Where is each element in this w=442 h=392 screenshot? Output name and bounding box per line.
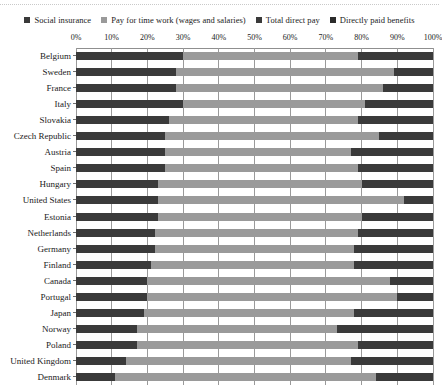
bar-segment [155, 229, 358, 237]
y-axis-category-label: Finland [43, 257, 71, 273]
stacked-bar [76, 213, 433, 221]
y-axis-category-label: France [47, 80, 72, 96]
y-axis-category-label: Austria [45, 144, 72, 160]
chart-row: United Kingdom [76, 353, 433, 369]
legend-swatch-icon [101, 17, 107, 23]
y-axis-category-label: United Kingdom [10, 353, 71, 369]
bar-segment [351, 148, 433, 156]
stacked-bar [76, 132, 433, 140]
legend-item: Pay for time work (wages and salaries) [101, 15, 246, 25]
bar-segment [183, 100, 365, 108]
x-axis-tick-label: 0% [71, 33, 82, 43]
bar-segment [354, 261, 433, 269]
chart-row: Netherlands [76, 225, 433, 241]
bar-segment [126, 357, 351, 365]
bar-segment [165, 148, 351, 156]
bar-segment [376, 373, 433, 381]
bar-segment [76, 148, 165, 156]
bar-segment [76, 213, 158, 221]
stacked-bar [76, 229, 433, 237]
stacked-bar [76, 293, 433, 301]
stacked-bar [76, 373, 433, 381]
stacked-bar [76, 84, 433, 92]
y-axis-category-label: Sweden [43, 64, 72, 80]
chart-row: Hungary [76, 176, 433, 192]
bar-segment [390, 277, 433, 285]
legend-swatch-icon [330, 17, 336, 23]
chart-row: Sweden [76, 64, 433, 80]
y-axis-category-label: Norway [42, 321, 71, 337]
bar-segment [155, 245, 355, 253]
bar-segment [76, 100, 183, 108]
y-axis-category-label: Slovakia [40, 112, 72, 128]
chart-row: Austria [76, 144, 433, 160]
bar-segment [354, 245, 433, 253]
bar-segment [76, 309, 144, 317]
top-divider-rule [0, 4, 439, 5]
chart-row: Portugal [76, 289, 433, 305]
bar-segment [176, 68, 394, 76]
y-axis-category-label: Canada [44, 273, 71, 289]
bar-segment [76, 261, 151, 269]
bar-segment [397, 293, 433, 301]
chart-row: Italy [76, 96, 433, 112]
bar-segment [358, 164, 433, 172]
y-axis-category-label: Poland [46, 337, 71, 353]
stacked-bar [76, 68, 433, 76]
chart-row: Canada [76, 273, 433, 289]
x-axis-tick-label: 100% [424, 33, 442, 43]
bar-segment [379, 132, 433, 140]
chart-row: Japan [76, 305, 433, 321]
stacked-bar [76, 100, 433, 108]
x-axis-tick-label: 70% [319, 33, 334, 43]
bar-segment [383, 84, 433, 92]
bar-segment [165, 164, 358, 172]
legend-label: Total direct pay [266, 15, 320, 25]
x-axis-tick-label: 20% [140, 33, 155, 43]
y-axis-category-label: Czech Republic [14, 128, 71, 144]
bar-segment [358, 52, 433, 60]
bar-segment [394, 68, 433, 76]
bar-rows: BelgiumSwedenFranceItalySlovakiaCzech Re… [76, 48, 433, 385]
legend-label: Social insurance [34, 15, 91, 25]
y-axis-category-label: United States [23, 192, 71, 208]
stacked-bar [76, 245, 433, 253]
bar-segment [365, 100, 433, 108]
y-axis-category-label: Hungary [40, 176, 72, 192]
x-axis-tick-labels: 0%10%20%30%40%50%60%70%80%90%100% [76, 33, 433, 45]
bar-segment [358, 229, 433, 237]
chart-row: Czech Republic [76, 128, 433, 144]
bar-segment [76, 116, 169, 124]
x-axis-tick-label: 60% [283, 33, 298, 43]
bar-segment [158, 196, 404, 204]
y-axis-category-label: Germany [38, 241, 72, 257]
stacked-bar [76, 277, 433, 285]
bar-segment [76, 164, 165, 172]
bar-segment [176, 84, 383, 92]
chart-row: Belgium [76, 48, 433, 64]
stacked-bar [76, 309, 433, 317]
bar-segment [354, 309, 433, 317]
bar-segment [337, 325, 433, 333]
bar-segment [76, 357, 126, 365]
chart-row: Germany [76, 241, 433, 257]
bar-segment [76, 341, 137, 349]
chart-row: Norway [76, 321, 433, 337]
bar-segment [362, 213, 433, 221]
bar-segment [158, 213, 361, 221]
chart-row: Slovakia [76, 112, 433, 128]
bar-segment [76, 277, 147, 285]
x-axis-tick-label: 80% [354, 33, 369, 43]
bar-segment [151, 261, 354, 269]
bar-segment [147, 293, 397, 301]
bar-segment [76, 373, 115, 381]
stacked-bar [76, 180, 433, 188]
chart-row: Poland [76, 337, 433, 353]
bar-segment [76, 325, 137, 333]
legend-item: Directly paid benefits [330, 15, 415, 25]
chart-plot-area: BelgiumSwedenFranceItalySlovakiaCzech Re… [76, 48, 433, 385]
x-axis-tick-label: 30% [176, 33, 191, 43]
bar-segment [115, 373, 376, 381]
bar-segment [76, 84, 176, 92]
legend-swatch-icon [24, 17, 30, 23]
